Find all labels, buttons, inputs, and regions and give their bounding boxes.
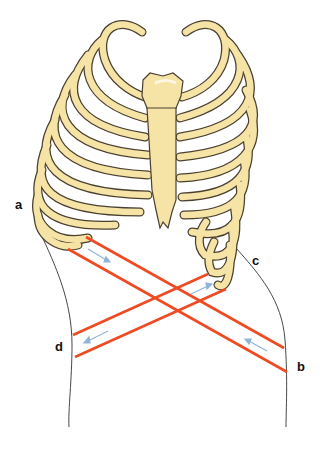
arrow-icon-center-to-c xyxy=(191,283,212,294)
label-d: d xyxy=(55,339,63,354)
arrow-icon-center-to-d xyxy=(84,331,108,343)
label-b: b xyxy=(297,359,305,374)
ribcage-diagram xyxy=(0,0,319,449)
ribs xyxy=(36,25,253,286)
label-c: c xyxy=(252,253,259,268)
direction-arrows xyxy=(84,249,267,351)
muscle-line-d-c-upper xyxy=(73,274,208,335)
arrow-icon-a-to-center xyxy=(88,249,110,262)
label-a: a xyxy=(15,197,22,212)
